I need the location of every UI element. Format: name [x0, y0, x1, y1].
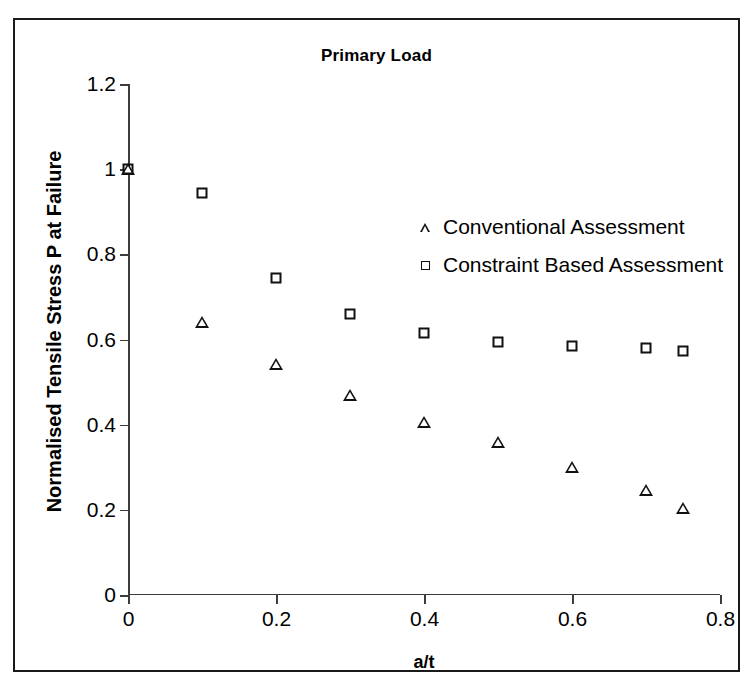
data-point-triangle	[676, 502, 690, 514]
data-point-triangle	[195, 316, 209, 328]
x-tick-mark	[424, 595, 426, 604]
data-point-triangle	[417, 416, 431, 428]
x-tick-label: 0.6	[558, 607, 587, 631]
y-tick-label: 0	[104, 583, 116, 607]
chart-title: Primary Load	[15, 46, 738, 66]
y-tick-label: 0.8	[87, 242, 116, 266]
x-tick: 0.4	[424, 595, 425, 596]
data-point-square	[419, 328, 430, 339]
data-point-triangle	[565, 461, 579, 473]
figure-frame: Primary Load Normalised Tensile Stress P…	[13, 18, 740, 672]
data-markers-layer	[128, 84, 720, 192]
data-point-square	[493, 336, 504, 347]
y-tick-label: 0.2	[87, 498, 116, 522]
x-axis-title: a/t	[128, 652, 720, 673]
y-tick-mark	[120, 340, 129, 342]
x-tick-label: 0.4	[410, 607, 439, 631]
y-tick-mark	[120, 84, 129, 86]
data-point-square	[197, 187, 208, 198]
data-point-triangle	[639, 484, 653, 496]
plot-area: 00.20.40.60.811.2 00.20.40.60.8 Conventi…	[128, 84, 720, 595]
legend-item-constraint-based: Constraint Based Assessment	[413, 246, 723, 284]
y-tick-mark	[120, 425, 129, 427]
x-tick: 0	[128, 595, 129, 596]
data-point-square	[641, 343, 652, 354]
x-tick-mark	[276, 595, 278, 604]
y-tick-label: 1	[104, 157, 116, 181]
x-tick: 0.8	[720, 595, 721, 596]
x-tick-label: 0.8	[706, 607, 735, 631]
legend-label-constraint-based: Constraint Based Assessment	[443, 253, 723, 277]
y-tick-mark	[120, 169, 129, 171]
x-tick-mark	[572, 595, 574, 604]
data-point-square	[271, 272, 282, 283]
x-tick-mark	[720, 595, 722, 604]
data-point-triangle	[491, 436, 505, 448]
x-tick: 0.2	[276, 595, 277, 596]
data-point-triangle	[269, 358, 283, 370]
data-point-square	[567, 340, 578, 351]
x-tick-label: 0.2	[262, 607, 291, 631]
data-point-square	[345, 308, 356, 319]
legend-item-conventional: Conventional Assessment	[413, 208, 723, 246]
data-point-square	[678, 346, 689, 357]
triangle-marker-icon	[413, 223, 437, 232]
chart-legend: Conventional Assessment Constraint Based…	[413, 208, 723, 284]
x-tick-mark	[128, 595, 130, 604]
legend-label-conventional: Conventional Assessment	[443, 215, 685, 239]
square-marker-icon	[413, 261, 437, 270]
y-tick-label: 1.2	[87, 72, 116, 96]
x-tick-label: 0	[123, 607, 135, 631]
y-tick-mark	[120, 254, 129, 256]
y-tick-label: 0.4	[87, 413, 116, 437]
y-tick-label: 0.6	[87, 328, 116, 352]
y-tick-mark	[120, 510, 129, 512]
y-axis-title: Normalised Tensile Stress P at Failure	[43, 97, 66, 567]
data-point-triangle	[343, 389, 357, 401]
x-tick: 0.6	[572, 595, 573, 596]
